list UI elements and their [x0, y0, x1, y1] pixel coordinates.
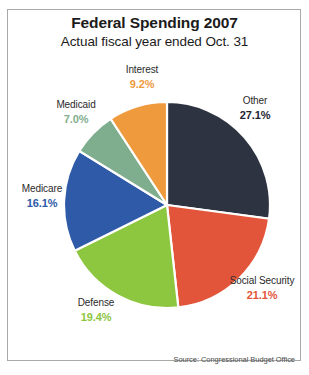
slice-label-defense-name: Defense [58, 297, 134, 310]
slice-label-other-name: Other [224, 95, 286, 108]
chart-title: Federal Spending 2007 [0, 13, 309, 32]
slice-label-medicare: Medicare 16.1% [6, 183, 78, 209]
slice-label-medicaid: Medicaid 7.0% [38, 99, 114, 125]
slice-label-medicaid-name: Medicaid [38, 99, 114, 112]
slice-label-medicare-name: Medicare [6, 183, 78, 196]
slice-label-other-percent: 27.1% [224, 109, 286, 122]
pie-chart-figure: Federal Spending 2007 Actual fiscal year… [0, 0, 309, 375]
slice-label-defense-percent: 19.4% [58, 311, 134, 324]
slice-label-interest-percent: 9.2% [106, 78, 178, 91]
source-note: Source: Congressional Budget Office [173, 355, 295, 364]
slice-label-social-security-name: Social Security [220, 275, 304, 288]
chart-subtitle: Actual fiscal year ended Oct. 31 [0, 33, 309, 51]
slice-label-social-security-percent: 21.1% [220, 289, 304, 302]
title-block: Federal Spending 2007 Actual fiscal year… [0, 13, 309, 51]
slice-label-medicaid-percent: 7.0% [38, 113, 114, 126]
slice-label-social-security: Social Security 21.1% [220, 275, 304, 301]
slice-label-interest: Interest 9.2% [106, 64, 178, 90]
slice-label-defense: Defense 19.4% [58, 297, 134, 323]
slice-label-medicare-percent: 16.1% [6, 197, 78, 210]
slice-label-other: Other 27.1% [224, 95, 286, 121]
slice-label-interest-name: Interest [106, 64, 178, 77]
